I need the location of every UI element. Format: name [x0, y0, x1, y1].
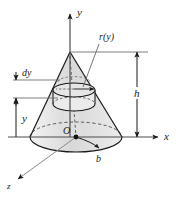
origin-label: O	[63, 125, 70, 136]
cone-volume-figure: y x z O b r(y)	[0, 0, 176, 199]
figure-canvas: y x z O b r(y)	[0, 0, 176, 199]
disk-element	[53, 83, 95, 111]
height-label: h	[134, 87, 140, 99]
variable-height-dimension: y	[16, 99, 27, 137]
thickness-label: dy	[22, 67, 32, 78]
disk-top-ellipse	[53, 83, 95, 97]
axis-z-label: z	[6, 181, 11, 191]
variable-height-label: y	[21, 112, 27, 124]
base-radius-label: b	[96, 153, 101, 164]
radius-function-leader	[83, 44, 99, 87]
radius-function-label: r(y)	[99, 31, 115, 43]
axis-y-label: y	[76, 6, 82, 18]
axis-x-label: x	[163, 130, 169, 142]
radius-function-callout: r(y)	[83, 31, 115, 87]
